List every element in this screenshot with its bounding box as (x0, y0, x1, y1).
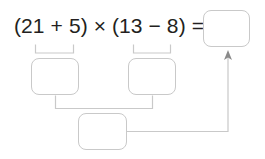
result-answer-box[interactable] (203, 10, 250, 47)
product-answer-box[interactable] (78, 113, 127, 150)
math-worksheet-canvas: (21 + 5) × (13 − 8) = (0, 0, 265, 159)
expression-line: (21 + 5) × (13 − 8) = (14, 13, 204, 39)
right-group-answer-box[interactable] (128, 58, 176, 95)
bracket-product-join (56, 96, 153, 109)
left-group-answer-box[interactable] (31, 58, 79, 95)
bracket-left-group (36, 45, 74, 53)
bracket-right-group (134, 45, 171, 53)
arrow-up-icon (224, 50, 232, 60)
expression-text: (21 + 5) × (13 − 8) = (14, 14, 204, 37)
